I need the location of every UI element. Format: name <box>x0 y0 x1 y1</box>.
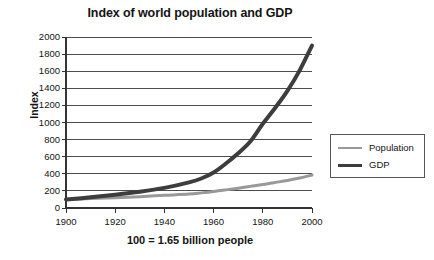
y-tick-label: 2000 <box>20 31 60 42</box>
legend-label-population: Population <box>369 143 414 153</box>
plot-canvas <box>66 37 312 208</box>
y-tick-label: 600 <box>20 151 60 162</box>
grid-lines <box>66 37 312 191</box>
x-tick-label: 1980 <box>243 216 283 227</box>
x-tick-label: 1960 <box>194 216 234 227</box>
legend-item-gdp: GDP <box>338 158 390 172</box>
y-tick-label: 1200 <box>20 99 60 110</box>
y-tick-label: 1000 <box>20 117 60 128</box>
y-tick-label: 1800 <box>20 48 60 59</box>
chart-title: Index of world population and GDP <box>0 6 380 20</box>
y-tick-label: 800 <box>20 134 60 145</box>
y-tick-label: 200 <box>20 185 60 196</box>
chart-caption: 100 = 1.65 billion people <box>0 234 380 246</box>
y-tick-label: 1400 <box>20 82 60 93</box>
legend-item-population: Population <box>338 141 414 155</box>
y-tick-label: 0 <box>20 202 60 213</box>
chart-figure: Index of world population and GDP Index … <box>0 0 434 260</box>
y-tick-label: 1600 <box>20 65 60 76</box>
x-tick-label: 2000 <box>292 216 332 227</box>
chart-legend: Population GDP <box>330 134 425 178</box>
x-tick-label: 1920 <box>95 216 135 227</box>
x-tick-label: 1940 <box>144 216 184 227</box>
legend-swatch-population <box>338 147 362 149</box>
plot-area <box>66 37 312 208</box>
x-tick-label: 1900 <box>46 216 86 227</box>
legend-label-gdp: GDP <box>369 160 390 170</box>
legend-swatch-gdp <box>338 164 362 167</box>
x-axis-tick-marks <box>66 208 312 213</box>
y-tick-label: 400 <box>20 168 60 179</box>
